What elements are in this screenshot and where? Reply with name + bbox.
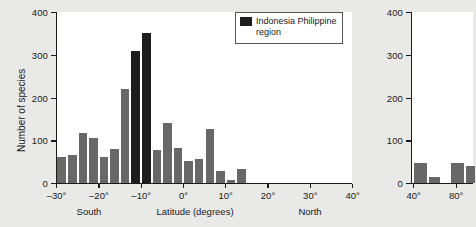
bar-5 — [110, 149, 119, 183]
y-tick-label-0: 0 — [22, 179, 48, 189]
x-tick-secondary-40 — [413, 184, 414, 188]
x-tick-30 — [310, 184, 311, 188]
x-tick-label-30: 30° — [290, 191, 330, 201]
y-tick-secondary-0 — [406, 183, 411, 184]
chart-panel-secondary: 400 300 200 100 0 40° 80° — [370, 0, 473, 227]
x-tick-secondary-80 — [456, 184, 457, 188]
x-tick-40 — [352, 184, 353, 188]
y-tick-label-secondary-0: 0 — [377, 179, 403, 189]
y-tick-label-300: 300 — [22, 51, 48, 61]
x-tick--20 — [98, 184, 99, 188]
legend-box[interactable]: Indonesia Philippine region — [235, 12, 343, 44]
legend-entry-indonesia-philippine: Indonesia Philippine region — [240, 16, 337, 38]
legend-swatch-icon — [240, 17, 252, 26]
bar-8-highlight — [142, 33, 151, 184]
y-tick-label-secondary-300: 300 — [377, 51, 403, 61]
x-tick-label-secondary-80: 80° — [436, 191, 476, 201]
y-tick-label-400: 400 — [22, 8, 48, 18]
legend-entry-label: Indonesia Philippine region — [256, 16, 337, 38]
bar-secondary-1 — [429, 177, 440, 183]
x-tick--30 — [56, 184, 57, 188]
x-tick-0 — [183, 184, 184, 188]
bar-10 — [163, 123, 172, 183]
y-axis-title: Number of species — [16, 69, 27, 152]
x-tick-label-20: 20° — [248, 191, 288, 201]
x-tick-label-secondary-40: 40° — [394, 191, 434, 201]
bar-9 — [153, 150, 162, 183]
x-tick--10 — [141, 184, 142, 188]
y-tick-label-secondary-400: 400 — [377, 8, 403, 18]
bar-7-highlight — [131, 51, 140, 184]
bar-12 — [184, 161, 193, 183]
x-axis-title: Latitude (degrees) — [140, 207, 250, 217]
x-axis-annotation-south: South — [57, 207, 121, 217]
bar-14 — [206, 129, 215, 183]
x-tick-label--20: –20° — [79, 191, 119, 201]
bar-2 — [79, 133, 88, 183]
x-tick-label-10: 10° — [206, 191, 246, 201]
bar-3 — [89, 138, 98, 183]
bar-secondary-3 — [466, 166, 475, 183]
x-tick-20 — [267, 184, 268, 188]
bar-0 — [57, 157, 66, 184]
x-tick-label-0: 0° — [164, 191, 204, 201]
bar-15 — [216, 171, 225, 183]
bar-secondary-2 — [451, 163, 464, 184]
x-tick-label--30: –30° — [37, 191, 77, 201]
bar-11 — [174, 148, 183, 183]
x-tick-label-40: 40° — [333, 191, 373, 201]
chart-panel-main: 400 300 200 100 0 Number of species –30°… — [0, 0, 370, 227]
bar-13 — [195, 159, 204, 183]
x-axis-main — [56, 183, 352, 184]
bar-6 — [121, 89, 130, 183]
bar-1 — [68, 155, 77, 183]
bar-17 — [237, 169, 246, 183]
x-axis-annotation-north: North — [278, 207, 342, 217]
bar-secondary-0 — [414, 163, 427, 184]
y-tick-label-secondary-200: 200 — [377, 94, 403, 104]
x-tick-10 — [225, 184, 226, 188]
y-tick-label-secondary-100: 100 — [377, 136, 403, 146]
x-axis-secondary — [411, 183, 473, 184]
bar-group-secondary — [411, 12, 473, 183]
bar-16 — [227, 180, 236, 183]
x-tick-label--10: –10° — [121, 191, 161, 201]
bar-4 — [100, 157, 109, 183]
